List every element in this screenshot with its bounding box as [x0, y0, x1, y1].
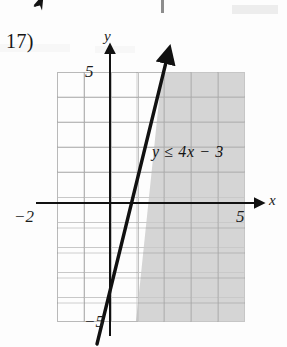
x-tick-neg-2: −2	[14, 207, 34, 227]
y-axis-label: y	[104, 28, 111, 45]
coordinate-graph: y x 5 −2 5 −5 y ≤ 4x − 3	[0, 0, 287, 347]
x-tick-5: 5	[236, 207, 245, 227]
worksheet-page: 17)	[0, 0, 287, 347]
inequality-relation: ≤	[164, 143, 173, 160]
inequality-annotation: y ≤ 4x − 3	[152, 143, 224, 161]
x-axis-label: x	[269, 192, 276, 209]
y-tick-5: 5	[85, 62, 94, 82]
plot-svg	[0, 0, 287, 347]
shaded-solution-region	[136, 72, 245, 322]
inequality-lhs: y	[152, 143, 160, 160]
y-tick-neg-5: −5	[84, 312, 104, 332]
inequality-rhs: 4x − 3	[178, 143, 224, 160]
